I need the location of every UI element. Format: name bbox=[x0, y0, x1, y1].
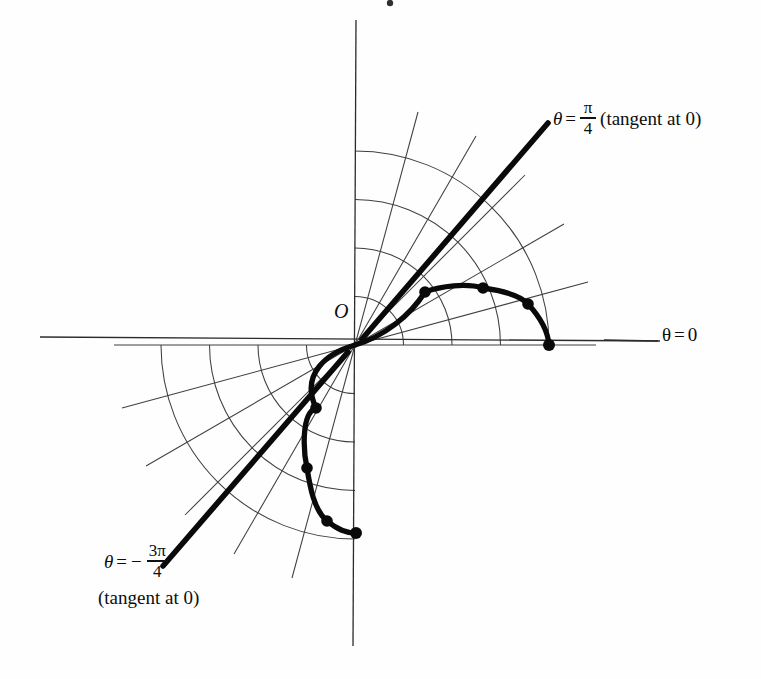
grid-radial-15deg bbox=[355, 282, 588, 345]
page-speck bbox=[387, 0, 393, 6]
fraction-denominator: 4 bbox=[582, 119, 595, 137]
data-point bbox=[310, 402, 322, 414]
data-point bbox=[321, 515, 333, 527]
data-point bbox=[522, 298, 534, 310]
vertical-axis bbox=[353, 20, 356, 646]
fraction-denominator: 4 bbox=[151, 562, 164, 580]
fraction-3pi-over-4: 3π 4 bbox=[147, 542, 168, 580]
theta-symbol: θ bbox=[104, 551, 113, 573]
grid-radial-60deg bbox=[355, 136, 476, 345]
tangent-line-pi-over-4 bbox=[362, 123, 548, 339]
fraction-numerator: 3π bbox=[147, 542, 168, 560]
fraction-pi-over-4: π 4 bbox=[580, 99, 596, 137]
theta-symbol: θ bbox=[662, 324, 671, 346]
origin-label-text: O bbox=[334, 300, 348, 322]
equals-symbol: = bbox=[565, 108, 576, 130]
minus-symbol: − bbox=[130, 551, 143, 573]
theta-symbol: θ bbox=[553, 108, 562, 130]
tangent-label-lower: θ = − 3π 4 (tangent at 0) bbox=[104, 543, 199, 608]
equals-symbol: = bbox=[674, 324, 685, 346]
data-point bbox=[350, 527, 362, 539]
grid-radial-240deg bbox=[234, 345, 355, 554]
polar-graph-figure: O θ = 0 θ = π 4 (tangent at 0) θ = − 3π bbox=[0, 0, 761, 679]
origin-label: O bbox=[334, 300, 348, 323]
tangent-label-upper: θ = π 4 (tangent at 0) bbox=[553, 100, 701, 138]
data-point bbox=[543, 339, 555, 351]
grid-radial-195deg bbox=[122, 345, 355, 408]
data-point bbox=[419, 286, 431, 298]
polar-grid-quadrant-upper-right bbox=[355, 112, 596, 345]
data-point bbox=[477, 282, 489, 294]
data-point bbox=[301, 462, 313, 474]
equals-symbol: = bbox=[116, 551, 127, 573]
zero-value: 0 bbox=[688, 324, 698, 346]
tangent-line-minus-3pi-over-4 bbox=[163, 352, 348, 566]
horizontal-axis bbox=[40, 337, 660, 341]
tangent-note: (tangent at 0) bbox=[600, 108, 701, 130]
fraction-numerator: π bbox=[582, 99, 595, 117]
tangent-note: (tangent at 0) bbox=[98, 587, 199, 609]
polar-axis-label: θ = 0 bbox=[662, 324, 697, 346]
